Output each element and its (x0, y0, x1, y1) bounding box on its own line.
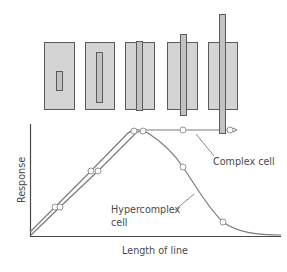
complex-point-5 (227, 127, 233, 133)
y-axis-label: Response (16, 157, 27, 203)
receptive-field-figure: Complex cell Hypercomplex cell Length of… (0, 0, 287, 272)
line-stimulus-bar-overlay (220, 15, 226, 134)
stimulus-1 (45, 43, 75, 110)
figure-svg: Complex cell Hypercomplex cell Length of… (0, 0, 287, 272)
hypercomplex-point-2 (95, 168, 101, 174)
line-stimulus-bar (181, 35, 187, 116)
hypercomplex-cell-label-line2: cell (111, 217, 128, 228)
complex-point-3 (131, 128, 137, 134)
complex-cell-label: Complex cell (213, 156, 275, 167)
axes (30, 124, 281, 237)
hypercomplex-point-3 (140, 128, 146, 134)
line-stimulus-bar (97, 53, 103, 103)
hypercomplex-point-4 (180, 164, 186, 170)
hypercomplex-point-5 (220, 219, 226, 225)
complex-point-2 (88, 168, 94, 174)
hypercomplex-cell-curve (31, 131, 281, 235)
stimulus-2 (86, 43, 115, 110)
complex-cell-leader (196, 134, 214, 156)
complex-cell-arrowhead (233, 128, 237, 132)
complex-point-4 (180, 127, 186, 133)
hypercomplex-cell-label-line1: Hypercomplex (111, 204, 181, 215)
x-axis-label: Length of line (122, 245, 188, 256)
hypercomplex-point-1 (57, 204, 63, 210)
complex-cell-curve (30, 130, 232, 232)
stimulus-4 (168, 35, 198, 116)
line-stimulus-bar (137, 42, 143, 111)
stimuli-row (45, 15, 238, 134)
line-stimulus-bar (57, 72, 63, 91)
stimulus-3 (126, 42, 155, 111)
